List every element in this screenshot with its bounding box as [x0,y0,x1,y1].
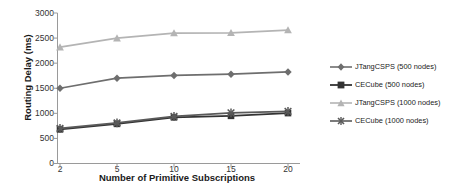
legend-item: JTangCSPS (500 nodes) [330,58,452,76]
chart-figure: Routing Delay (ms) 3000 2500 2000 1500 1… [0,0,452,195]
data-series [56,26,292,50]
legend-marker-square-icon [330,78,352,92]
legend-item: CECube (500 nodes) [330,76,452,94]
legend-item: JTangCSPS (1000 nodes) [330,94,452,112]
legend-label: CECube (1000 nodes) [352,117,429,124]
data-series [56,68,291,92]
x-axis-title: Number of Primitive Subscriptions [57,172,297,183]
x-tick-marks [60,164,288,168]
legend-label: JTangCSPS (1000 nodes) [352,99,440,106]
legend-label: JTangCSPS (500 nodes) [352,63,436,70]
data-series-layer [56,26,292,132]
axis-lines [57,13,300,164]
legend-marker-diamond-icon [330,60,352,74]
chart-legend: JTangCSPS (500 nodes) CECube (500 nodes)… [330,58,452,130]
legend-marker-triangle-icon [330,96,352,110]
legend-label: CECube (500 nodes) [352,81,424,88]
legend-item: CECube (1000 nodes) [330,112,452,130]
data-series [57,107,292,133]
legend-marker-cross-icon [330,114,352,128]
